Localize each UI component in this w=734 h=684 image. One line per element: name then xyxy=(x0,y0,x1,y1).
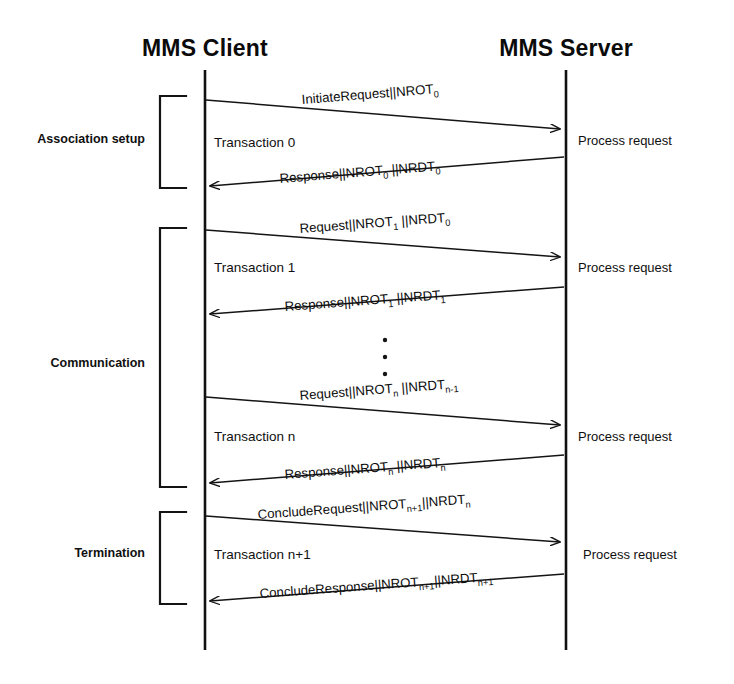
message-label-request-n: Request||NROTn ||NRDTn-1 xyxy=(299,376,459,406)
phase-label-termination: Termination xyxy=(74,546,145,560)
phase-label-communication: Communication xyxy=(51,356,145,370)
message-label-response-0: Response||NROT0 ||NRDT0 xyxy=(279,158,441,189)
message-arrow-initiate-request xyxy=(206,100,560,129)
server-note-process-request-n-plus-1: Process request xyxy=(583,547,677,562)
transaction-1: Request||NROT1 ||NRDT0 Transaction 1 Res… xyxy=(206,210,564,317)
server-note-process-request-n: Process request xyxy=(578,429,672,444)
transaction-label-n: Transaction n xyxy=(214,429,295,444)
message-label-initiate-request: InitiateRequest||NROT0 xyxy=(301,81,439,110)
ellipsis-dot xyxy=(383,372,387,376)
server-note-process-request-0: Process request xyxy=(578,133,672,148)
phase-labels: Association setup Communication Terminat… xyxy=(37,132,145,560)
message-label-conclude-request: ConcludeRequest||NROTn+1||NRDTn xyxy=(257,491,471,525)
phase-label-association-setup: Association setup xyxy=(37,132,145,146)
message-arrow-request-1 xyxy=(206,230,560,257)
lifeline-title-client: MMS Client xyxy=(142,35,268,61)
ellipsis-dot xyxy=(383,338,387,342)
server-notes: Process request Process request Process … xyxy=(578,133,677,562)
transaction-label-0: Transaction 0 xyxy=(214,135,295,150)
phase-brackets xyxy=(160,96,186,604)
message-label-conclude-response: ConcludeResponse||NROTn+1||NRDTn+1 xyxy=(259,569,494,604)
continuation-ellipsis xyxy=(383,338,387,376)
transaction-n: Request||NROTn ||NRDTn-1 Transaction n R… xyxy=(206,376,564,485)
transaction-label-1: Transaction 1 xyxy=(214,260,295,275)
bracket-termination xyxy=(160,512,186,604)
server-note-process-request-1: Process request xyxy=(578,260,672,275)
bracket-communication xyxy=(160,228,186,487)
transaction-n-plus-1: ConcludeRequest||NROTn+1||NRDTn Transact… xyxy=(206,491,564,604)
transaction-0: InitiateRequest||NROT0 Transaction 0 Res… xyxy=(206,81,564,189)
ellipsis-dot xyxy=(383,355,387,359)
lifeline-headers: MMS Client MMS Server xyxy=(142,35,633,61)
sequence-diagram: MMS Client MMS Server Association setup … xyxy=(0,0,734,684)
message-label-request-1: Request||NROT1 ||NRDT0 xyxy=(299,210,451,239)
message-arrow-request-n xyxy=(206,397,560,425)
lifelines xyxy=(205,70,566,650)
message-label-response-n: Response||NROTn ||NRDTn xyxy=(284,455,446,485)
bracket-association-setup xyxy=(160,96,186,188)
diagram-canvas: MMS Client MMS Server Association setup … xyxy=(0,0,734,684)
message-label-response-1: Response||NROT1 ||NRDT1 xyxy=(284,287,446,317)
transaction-label-n-plus-1: Transaction n+1 xyxy=(214,547,311,562)
lifeline-title-server: MMS Server xyxy=(499,35,633,61)
